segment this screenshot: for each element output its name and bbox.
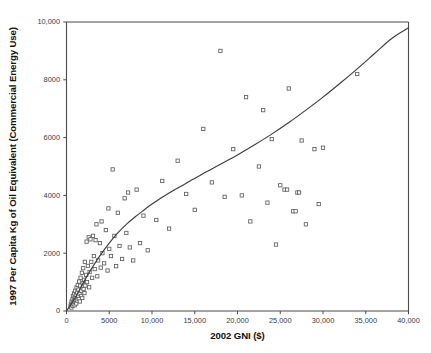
y-tick-label: 4000 xyxy=(44,191,60,200)
data-point-marker xyxy=(202,127,205,130)
data-point-marker xyxy=(86,264,89,267)
data-point-marker xyxy=(266,201,269,204)
x-tick-label: 35,000 xyxy=(354,316,377,325)
data-point-marker xyxy=(79,276,82,279)
data-point-marker xyxy=(91,234,94,237)
data-point-marker xyxy=(78,300,81,303)
data-point-marker xyxy=(300,139,303,142)
data-point-marker xyxy=(317,202,320,205)
chart-figure: 0200040006000800010,000 0500010,00015,00… xyxy=(0,0,431,353)
data-point-marker xyxy=(88,286,91,289)
x-tick-label: 20,000 xyxy=(226,316,249,325)
data-point-marker xyxy=(83,291,86,294)
data-point-marker xyxy=(270,137,273,140)
data-point-marker xyxy=(80,271,83,274)
data-point-marker xyxy=(83,260,86,263)
data-point-marker xyxy=(100,220,103,223)
scatter-plot-svg: 0200040006000800010,000 0500010,00015,00… xyxy=(0,0,431,353)
x-tick-label: 40,000 xyxy=(397,316,420,325)
data-point-marker xyxy=(210,181,213,184)
data-point-marker xyxy=(219,49,222,52)
data-point-marker xyxy=(90,260,93,263)
data-point-marker xyxy=(85,280,88,283)
data-point-marker xyxy=(249,220,252,223)
data-point-marker xyxy=(120,257,123,260)
x-tick-label: 5000 xyxy=(101,316,117,325)
data-point-marker xyxy=(104,228,107,231)
y-tick-label: 10,000 xyxy=(37,17,60,26)
data-point-marker xyxy=(356,72,359,75)
data-point-marker xyxy=(95,223,98,226)
data-point-marker xyxy=(106,269,109,272)
data-point-marker xyxy=(114,265,117,268)
x-tick-label: 25,000 xyxy=(269,316,292,325)
data-point-marker xyxy=(232,148,235,151)
y-tick-label: 6000 xyxy=(44,133,60,142)
data-point-marker xyxy=(96,275,99,278)
data-point-marker xyxy=(78,280,81,283)
data-point-marker xyxy=(126,191,129,194)
data-point-marker xyxy=(82,267,85,270)
data-point-marker xyxy=(185,192,188,195)
data-point-marker xyxy=(109,254,112,257)
data-point-marker xyxy=(161,179,164,182)
data-point-group xyxy=(69,49,359,309)
x-axis-title: 2002 GNI ($) xyxy=(210,330,264,341)
data-point-marker xyxy=(176,159,179,162)
data-point-marker xyxy=(93,267,96,270)
data-point-marker xyxy=(116,211,119,214)
data-point-marker xyxy=(98,241,101,244)
data-point-marker xyxy=(240,194,243,197)
x-tick-label: 0 xyxy=(64,316,68,325)
x-tick-label: 15,000 xyxy=(183,316,206,325)
data-point-marker xyxy=(285,188,288,191)
data-point-marker xyxy=(262,108,265,111)
x-tick-label: 30,000 xyxy=(312,316,335,325)
data-point-marker xyxy=(167,227,170,230)
data-point-marker xyxy=(313,148,316,151)
data-point-marker xyxy=(287,87,290,90)
data-point-marker xyxy=(294,210,297,213)
data-point-marker xyxy=(155,218,158,221)
data-point-marker xyxy=(135,188,138,191)
data-point-marker xyxy=(118,244,121,247)
data-point-marker xyxy=(84,284,87,287)
y-tick-label: 2000 xyxy=(44,249,60,258)
data-point-marker xyxy=(274,243,277,246)
data-point-marker xyxy=(257,165,260,168)
data-point-marker xyxy=(89,238,92,241)
data-point-marker xyxy=(111,168,114,171)
data-point-marker xyxy=(91,276,94,279)
data-point-marker xyxy=(107,207,110,210)
data-point-marker xyxy=(138,241,141,244)
data-point-marker xyxy=(99,266,102,269)
data-point-marker xyxy=(102,262,105,265)
data-point-marker xyxy=(92,254,95,257)
data-point-marker xyxy=(297,191,300,194)
data-point-marker xyxy=(108,247,111,250)
data-point-marker xyxy=(94,239,97,242)
trend-curve xyxy=(67,28,409,311)
data-point-marker xyxy=(321,146,324,149)
data-point-marker xyxy=(304,223,307,226)
data-point-marker xyxy=(132,259,135,262)
x-tick-label: 10,000 xyxy=(141,316,164,325)
data-point-marker xyxy=(193,208,196,211)
data-point-marker xyxy=(82,287,85,290)
data-point-marker xyxy=(146,249,149,252)
data-point-marker xyxy=(142,214,145,217)
data-point-marker xyxy=(244,95,247,98)
data-point-marker xyxy=(223,195,226,198)
data-point-marker xyxy=(125,231,128,234)
data-point-marker xyxy=(85,240,88,243)
y-axis-title: 1997 Per Capita Kg of Oil Equivalent (Co… xyxy=(7,27,18,306)
data-point-marker xyxy=(279,184,282,187)
data-point-marker xyxy=(123,197,126,200)
y-axis-ticks: 0200040006000800010,000 xyxy=(37,17,66,315)
x-axis-ticks: 0500010,00015,00020,00025,00030,00035,00… xyxy=(64,311,419,325)
data-point-marker xyxy=(81,296,84,299)
y-tick-label: 0 xyxy=(56,306,60,315)
y-tick-label: 8000 xyxy=(44,75,60,84)
data-point-marker xyxy=(128,246,131,249)
